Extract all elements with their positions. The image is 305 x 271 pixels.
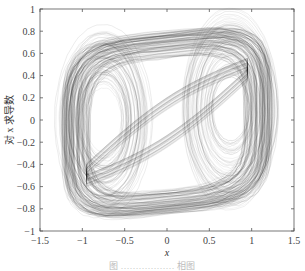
x-tick-label: 0.5 <box>203 235 216 246</box>
y-tick-label: −0.6 <box>17 181 35 192</box>
x-tick-label: 1 <box>249 235 254 246</box>
y-tick-label: 0.8 <box>23 26 36 37</box>
x-tick-label: 0 <box>165 235 170 246</box>
phase-portrait-figure: −1.5−1−0.500.511.5 −1−0.8−0.6−0.4−0.200.… <box>0 0 305 271</box>
y-tick-label: 1 <box>30 4 35 15</box>
x-tick-label: 1.5 <box>288 235 301 246</box>
y-tick-label: 0 <box>30 115 35 126</box>
figure-caption: 图 ……………… 相图 <box>109 260 195 271</box>
x-axis-label: x <box>164 247 170 258</box>
y-tick-label: 0.2 <box>23 92 36 103</box>
x-tick-label: −1 <box>77 235 88 246</box>
y-tick-label: −0.8 <box>17 203 35 214</box>
y-tick-label: 0.4 <box>23 70 36 81</box>
x-tick-label: −0.5 <box>116 235 134 246</box>
y-axis-label: 对 x 求导数 <box>3 95 15 145</box>
y-tick-label: −0.4 <box>17 159 35 170</box>
y-tick-label: −1 <box>24 226 35 237</box>
y-tick-label: 0.6 <box>23 48 36 59</box>
x-tick-label: −1.5 <box>31 235 49 246</box>
y-tick-label: −0.2 <box>17 137 35 148</box>
